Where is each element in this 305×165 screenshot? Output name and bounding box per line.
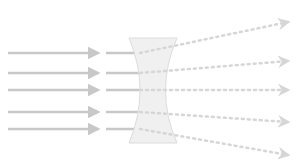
diverging-lens-diagram [0, 0, 305, 165]
incoming-rays [8, 53, 140, 129]
